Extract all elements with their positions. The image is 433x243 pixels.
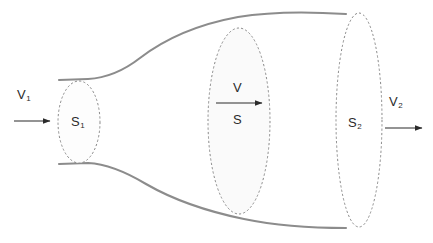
- tube-upper-wall: [59, 12, 346, 80]
- diagram-canvas: V1 S1 V S S2 V2: [0, 0, 433, 243]
- label-mid-area-base: S: [233, 112, 242, 127]
- flow-tube-figure: [0, 0, 433, 243]
- label-outlet-area: S2: [348, 116, 361, 129]
- label-inlet-velocity-base: V: [17, 87, 26, 102]
- label-outlet-velocity-base: V: [389, 94, 398, 109]
- label-outlet-velocity-sub: 2: [398, 101, 402, 110]
- tube-lower-wall: [59, 163, 346, 228]
- label-inlet-velocity-sub: 1: [26, 94, 30, 103]
- label-mid-velocity: V: [233, 81, 242, 94]
- label-mid-velocity-base: V: [233, 80, 242, 95]
- label-inlet-area-sub: 1: [80, 121, 84, 130]
- label-outlet-area-sub: 2: [357, 122, 361, 131]
- label-outlet-velocity: V2: [389, 95, 402, 108]
- label-mid-area: S: [233, 113, 242, 126]
- label-inlet-area: S1: [71, 115, 84, 128]
- label-outlet-area-base: S: [348, 115, 357, 130]
- label-inlet-area-base: S: [71, 114, 80, 129]
- label-inlet-velocity: V1: [17, 88, 30, 101]
